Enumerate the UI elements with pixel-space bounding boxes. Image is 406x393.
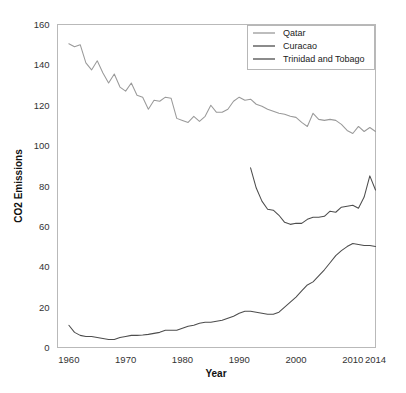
legend-label-qatar: Qatar <box>283 28 306 38</box>
y-tick-label: 20 <box>39 302 50 313</box>
y-tick-label: 120 <box>34 100 50 111</box>
legend-label-trinidad-and-tobago: Trinidad and Tobago <box>283 54 365 64</box>
line-chart: 020406080100120140160 196019701980199020… <box>0 0 406 393</box>
x-tick-label: 2000 <box>285 354 306 365</box>
x-tick-label: 1960 <box>58 354 79 365</box>
x-axis-title: Year <box>205 368 226 379</box>
legend-label-curacao: Curacao <box>283 41 317 51</box>
x-tick-label: 1970 <box>115 354 136 365</box>
y-tick-label: 60 <box>39 221 50 232</box>
x-tick-label: 2010 <box>342 354 363 365</box>
y-tick-label: 80 <box>39 181 50 192</box>
x-tick-label: 1990 <box>229 354 250 365</box>
x-tick-label: 2014 <box>365 354 386 365</box>
y-tick-label: 0 <box>44 342 49 353</box>
y-tick-label: 100 <box>34 140 50 151</box>
y-tick-label: 40 <box>39 261 50 272</box>
y-tick-label: 140 <box>34 59 50 70</box>
x-tick-label: 1980 <box>172 354 193 365</box>
y-axis-title: CO2 Emissions <box>13 149 24 223</box>
plot-area-frame <box>58 25 376 348</box>
y-tick-label: 160 <box>34 19 50 30</box>
chart-container: 020406080100120140160 196019701980199020… <box>0 0 406 393</box>
chart-legend: QatarCuracaoTrinidad and Tobago <box>248 26 375 70</box>
